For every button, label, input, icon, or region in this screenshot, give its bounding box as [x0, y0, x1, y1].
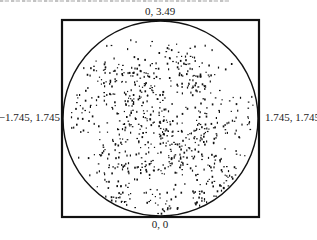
- data-point: [99, 77, 100, 78]
- data-point: [127, 139, 129, 140]
- data-point: [206, 107, 208, 108]
- data-point: [165, 145, 167, 146]
- data-point: [185, 56, 186, 58]
- data-point: [176, 84, 178, 86]
- data-point: [150, 163, 151, 164]
- data-point: [144, 72, 145, 73]
- data-point: [170, 86, 171, 87]
- data-point: [89, 112, 90, 113]
- data-point: [148, 201, 150, 202]
- data-point: [117, 166, 119, 167]
- data-point: [150, 189, 152, 190]
- data-point: [115, 143, 117, 145]
- data-point: [122, 128, 123, 130]
- data-point: [185, 59, 187, 61]
- data-point: [236, 130, 237, 132]
- data-point: [200, 111, 201, 113]
- data-point: [129, 198, 131, 199]
- data-point: [118, 163, 120, 164]
- data-point: [131, 111, 132, 112]
- data-point: [148, 76, 150, 77]
- data-point: [125, 81, 127, 82]
- data-point: [115, 149, 116, 151]
- data-point: [204, 128, 206, 129]
- data-point: [127, 187, 129, 188]
- data-point: [99, 139, 100, 140]
- data-point: [153, 170, 155, 171]
- data-point: [180, 156, 181, 158]
- data-point: [193, 192, 194, 194]
- data-point: [150, 200, 151, 201]
- data-point: [176, 56, 177, 57]
- data-point: [108, 181, 110, 183]
- data-point: [168, 157, 169, 158]
- data-point: [73, 127, 74, 129]
- data-point: [187, 134, 188, 135]
- data-point: [183, 63, 185, 65]
- data-point: [101, 79, 102, 80]
- data-point: [176, 44, 177, 45]
- data-point: [104, 100, 105, 102]
- data-point: [200, 124, 202, 125]
- data-point: [210, 166, 212, 168]
- data-point: [143, 113, 145, 114]
- data-point: [150, 85, 151, 86]
- data-point: [153, 72, 154, 74]
- data-point: [118, 157, 120, 159]
- data-point: [167, 122, 168, 123]
- data-point: [170, 207, 172, 208]
- data-point: [205, 124, 207, 126]
- data-point: [98, 163, 100, 164]
- data-point: [204, 169, 205, 171]
- data-point: [188, 63, 189, 64]
- data-point: [129, 95, 131, 96]
- data-point: [83, 67, 84, 69]
- data-point: [122, 65, 124, 66]
- data-point: [104, 173, 105, 175]
- data-point: [155, 203, 156, 204]
- right-annotation: 1.745, 1.745: [265, 111, 317, 123]
- data-point: [84, 110, 86, 111]
- data-point: [134, 207, 136, 208]
- data-point: [224, 148, 226, 149]
- data-point: [138, 140, 140, 142]
- data-point: [92, 115, 94, 117]
- data-point: [106, 81, 107, 82]
- data-point: [252, 105, 253, 106]
- data-point: [115, 78, 116, 80]
- data-point: [167, 209, 169, 210]
- data-point: [204, 198, 205, 200]
- data-point: [75, 108, 77, 110]
- data-point: [140, 169, 141, 171]
- data-point: [148, 151, 149, 153]
- data-point: [195, 82, 197, 84]
- data-point: [155, 68, 157, 69]
- data-point: [119, 196, 120, 198]
- boundary-circle: [63, 21, 258, 216]
- data-point: [142, 136, 144, 138]
- data-point: [213, 142, 215, 144]
- data-point: [142, 87, 143, 88]
- data-point: [236, 117, 237, 119]
- data-point: [159, 94, 161, 96]
- data-point: [125, 93, 127, 95]
- data-point: [206, 183, 207, 185]
- data-point: [180, 149, 182, 151]
- data-point: [94, 123, 95, 125]
- data-point: [152, 194, 153, 195]
- data-point: [220, 185, 222, 186]
- data-point: [106, 94, 107, 96]
- data-point: [128, 162, 129, 164]
- data-point: [187, 164, 189, 165]
- data-point: [126, 204, 127, 206]
- data-point: [205, 85, 207, 86]
- data-point: [120, 185, 122, 186]
- data-point: [201, 200, 202, 202]
- data-point: [204, 200, 205, 201]
- data-point: [165, 56, 167, 57]
- data-point: [164, 173, 165, 174]
- data-point: [175, 154, 177, 155]
- data-point: [152, 160, 154, 161]
- data-points: [71, 39, 254, 215]
- data-point: [201, 126, 203, 128]
